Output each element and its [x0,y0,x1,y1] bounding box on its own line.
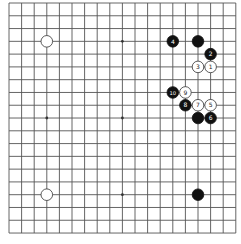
white-stone [41,36,53,48]
white-stone-icon [41,189,53,201]
hoshi-point [121,40,124,43]
white-stone [41,189,53,201]
black-stone [192,112,204,124]
white-stone-icon [41,36,53,48]
black-stone-move-6: 6 [205,112,217,124]
hoshi-point [45,117,48,120]
go-board: 12345678910 [0,0,241,244]
move-number-label: 4 [171,38,175,45]
black-stone-icon [192,189,204,201]
black-stone-icon [192,36,204,48]
white-stone-move-9: 9 [180,87,192,99]
move-number-label: 1 [209,63,213,70]
black-stone-icon [192,112,204,124]
move-number-label: 8 [183,101,187,108]
white-stone-move-7: 7 [192,99,204,111]
move-number-label: 3 [196,63,200,70]
white-stone-move-1: 1 [205,61,217,73]
hoshi-point [121,117,124,120]
move-number-label: 7 [196,101,200,108]
white-stone-move-5: 5 [205,99,217,111]
move-number-label: 9 [183,89,187,96]
black-stone [192,36,204,48]
move-number-label: 2 [209,50,213,57]
white-stone-move-3: 3 [192,61,204,73]
move-number-label: 6 [209,114,213,121]
hoshi-point [121,193,124,196]
black-stone-move-4: 4 [167,36,179,48]
black-stone-move-8: 8 [180,99,192,111]
move-number-label: 10 [169,90,176,96]
black-stone-move-10: 10 [167,87,179,99]
black-stone [192,189,204,201]
move-number-label: 5 [209,101,213,108]
black-stone-move-2: 2 [205,48,217,60]
